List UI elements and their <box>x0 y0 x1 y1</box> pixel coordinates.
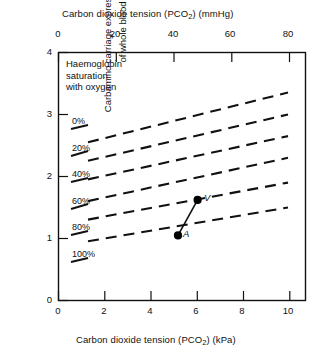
saturation-curves <box>88 93 288 242</box>
curve-20 <box>88 115 288 161</box>
curve-0 <box>88 93 288 143</box>
plot-frame <box>59 53 306 301</box>
av-connector-line <box>178 200 198 236</box>
bottom-ticks <box>59 291 290 301</box>
plot-svg <box>0 0 323 358</box>
carbamino-co2-chart: Carbon dioxide tension (PCO2) (mmHg) Car… <box>0 0 323 358</box>
curve-100 <box>88 208 288 242</box>
marker-point-v <box>194 196 202 204</box>
left-ticks <box>59 53 69 301</box>
top-ticks <box>59 53 290 63</box>
marker-point-a <box>174 231 182 239</box>
curve-label-underlines <box>71 125 88 262</box>
curve-60 <box>88 158 288 201</box>
curve-40 <box>88 136 288 179</box>
curve-80 <box>88 183 288 220</box>
